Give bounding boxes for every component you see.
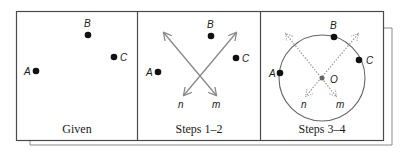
line-n-label: n [301,99,307,110]
point-a [277,70,284,77]
point-b-label: B [84,18,91,29]
line-m-label: m [212,99,220,110]
line-n-label: n [178,99,184,110]
point-c [233,55,240,62]
point-a-label: A [268,68,276,79]
panel-caption: Steps 1–2 [175,122,222,136]
line-m-label: m [336,99,344,110]
point-b [331,34,338,41]
point-c-label: C [366,55,374,66]
construction-diagram: A B C Given n m A B C Steps 1–2 n [0,0,401,155]
center-point-o [320,76,325,81]
point-c [356,57,363,64]
point-c-label: C [242,53,250,64]
center-label: O [330,74,338,85]
panel-caption: Steps 3–4 [298,122,345,136]
point-a-label: A [23,66,31,77]
point-b [85,32,92,39]
point-b-label: B [330,20,337,31]
point-c-label: C [120,52,128,63]
panel-caption: Given [62,122,91,136]
point-a [33,68,40,75]
point-b [208,33,215,40]
point-a [155,69,162,76]
point-c [111,54,118,61]
point-b-label: B [207,19,214,30]
point-a-label: A [145,67,153,78]
